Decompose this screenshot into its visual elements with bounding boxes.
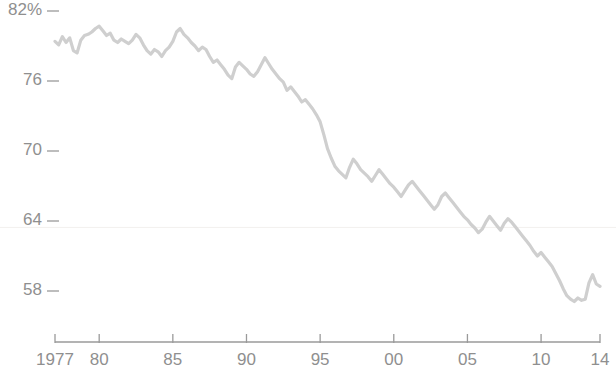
y-axis-tick-label-1: 76 [23, 70, 42, 90]
y-axis-ticks [47, 11, 59, 291]
y-axis-tick-label-0: 82% [8, 0, 42, 20]
x-axis-tick-label-6: 05 [427, 350, 507, 370]
x-axis-tick-label-5: 00 [354, 350, 434, 370]
y-axis-tick-label-2: 70 [23, 140, 42, 160]
data-series [55, 26, 600, 301]
y-axis-tick-label-3: 64 [23, 210, 42, 230]
x-axis-tick-label-1: 80 [59, 350, 139, 370]
x-axis-tick-label-8: 14 [560, 350, 616, 370]
x-axis [55, 334, 600, 343]
x-axis-tick-label-2: 85 [133, 350, 213, 370]
x-axis-tick-label-3: 90 [206, 350, 286, 370]
x-axis-tick-label-4: 95 [280, 350, 360, 370]
chart-container: 82%76706458 19778085909500051014 [0, 0, 616, 382]
y-axis-tick-label-4: 58 [23, 280, 42, 300]
line-chart-plot [0, 0, 616, 382]
series-line-rate [55, 26, 600, 301]
